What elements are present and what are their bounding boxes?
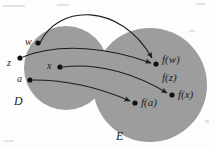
point-label-a: a [17, 74, 22, 84]
scan-speck [57, 4, 69, 6]
scan-speck [205, 120, 209, 123]
point-dot-fa [132, 100, 137, 105]
scan-speck [189, 30, 195, 32]
image-label-fz: f(z) [162, 72, 177, 83]
image-label-fa: f(a) [141, 97, 157, 108]
function-diagram: w z x a f(w) f(z) f(x) f(a) D E [0, 0, 215, 148]
set-label-domain: D [14, 95, 23, 107]
image-label-fx: f(x) [178, 89, 193, 100]
set-circle-codomain [93, 28, 207, 142]
point-label-w: w [25, 37, 32, 47]
scan-speck [3, 5, 25, 7]
set-label-codomain: E [116, 130, 123, 142]
diagram-canvas [0, 0, 215, 148]
point-dot-fx [169, 92, 174, 97]
image-label-fw: f(w) [162, 54, 180, 65]
set-shapes [24, 26, 207, 142]
point-dot-z [17, 55, 22, 60]
point-label-z: z [7, 58, 11, 68]
scan-speck [196, 3, 205, 5]
scan-speck [4, 140, 14, 142]
point-dot-w [35, 40, 40, 45]
point-dot-x [57, 64, 62, 69]
point-dot-a [27, 77, 32, 82]
point-dot-fw-fz [153, 61, 158, 66]
point-label-x: x [47, 61, 51, 71]
